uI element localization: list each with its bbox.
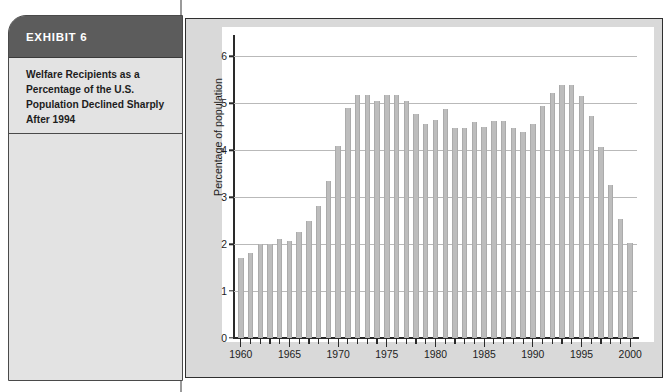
bar [481,127,486,338]
bar [579,96,584,338]
x-axis-tick-label: 1985 [473,349,496,360]
x-axis-tick-mark [571,338,572,344]
bar [238,258,243,338]
exhibit-header: EXHIBIT 6 [9,16,182,58]
x-axis-major-tick-mark [386,338,387,347]
y-axis-tick-mark [229,103,234,104]
bar [608,185,613,338]
bar [394,95,399,338]
x-axis-tick-mark [542,338,543,344]
bar [443,109,448,339]
y-axis-tick-label: 6 [221,51,227,62]
y-axis-tick-label: 3 [221,192,227,203]
x-axis-tick-mark [503,338,504,344]
x-axis-major-tick-mark [581,338,582,347]
x-axis-tick-mark [474,338,475,344]
bar [248,253,253,338]
bar [491,121,496,338]
x-axis-tick-label: 1975 [375,349,398,360]
x-axis-tick-mark [279,338,280,344]
x-axis-tick-mark [376,338,377,344]
x-axis-tick-mark [561,338,562,344]
x-axis-tick-mark [328,338,329,344]
x-axis-tick-mark [367,338,368,344]
gridline [234,103,637,104]
bar [540,106,545,338]
x-axis-tick-label: 1965 [278,349,301,360]
y-axis-tick-label: 2 [221,239,227,250]
x-axis-tick-mark [610,338,611,344]
x-axis-major-tick-mark [289,338,290,347]
x-axis-tick-mark [513,338,514,344]
x-axis-major-tick-mark [240,338,241,347]
bar [365,95,370,338]
bar [345,108,350,338]
y-axis-tick-mark [229,337,234,338]
bar [589,116,594,338]
exhibit-body-blank [9,134,182,380]
y-axis-tick-label: 5 [221,98,227,109]
bar [384,95,389,338]
x-axis-major-tick-mark [484,338,485,347]
bar [374,101,379,338]
y-axis-tick-label: 0 [221,333,227,344]
bar [316,206,321,338]
x-axis-tick-mark [600,338,601,344]
x-axis-major-tick-mark [532,338,533,347]
x-axis-tick-mark [620,338,621,344]
bar [530,124,535,338]
exhibit-card: EXHIBIT 6 Welfare Recipients as a Percen… [8,15,183,381]
x-axis-tick-mark [493,338,494,344]
bar [413,114,418,338]
x-axis-tick-mark [552,338,553,344]
chart-panel: Percentage of population 012345619601965… [185,18,663,378]
x-axis-major-tick-mark [630,338,631,347]
bar [559,85,564,338]
exhibit-page: EXHIBIT 6 Welfare Recipients as a Percen… [0,0,671,392]
exhibit-caption-text: Welfare Recipients as a Percentage of th… [26,67,168,127]
bar [501,121,506,338]
y-axis-tick-label: 4 [221,145,227,156]
bar-chart-plot-area: 0123456196019651970197519801985199019952… [234,47,637,338]
x-axis-tick-mark [308,338,309,344]
x-axis-tick-label: 1960 [229,349,252,360]
x-axis-tick-label: 2000 [619,349,642,360]
y-axis-tick-mark [229,196,234,197]
x-axis-tick-mark [318,338,319,344]
bar [550,93,555,338]
x-axis-tick-label: 1995 [570,349,593,360]
exhibit-number-label: EXHIBIT 6 [9,31,87,43]
gridline [234,56,637,57]
x-axis-tick-label: 1990 [521,349,544,360]
bar [618,219,623,338]
y-axis-line [233,35,235,338]
x-axis-tick-mark [415,338,416,344]
bar [258,244,263,338]
bar [355,95,360,338]
x-axis-tick-mark [396,338,397,344]
bar [423,124,428,338]
x-axis-tick-mark [523,338,524,344]
y-axis-tick-mark [229,243,234,244]
x-axis-tick-mark [591,338,592,344]
bar [306,221,311,338]
y-axis-tick-mark [229,150,234,151]
x-axis-tick-mark [357,338,358,344]
bar [433,120,438,338]
x-axis-tick-label: 1970 [327,349,350,360]
y-axis-tick-mark [229,56,234,57]
x-axis-tick-mark [250,338,251,344]
x-axis-tick-mark [406,338,407,344]
bar [511,128,516,338]
x-axis-tick-mark [260,338,261,344]
bar [335,146,340,338]
bar [472,122,477,338]
bar [520,132,525,338]
bar [452,128,457,338]
x-axis-tick-mark [269,338,270,344]
bar [627,243,632,338]
bar [326,181,331,338]
x-axis-tick-mark [425,338,426,344]
bar [287,241,292,338]
x-axis-tick-mark [464,338,465,344]
